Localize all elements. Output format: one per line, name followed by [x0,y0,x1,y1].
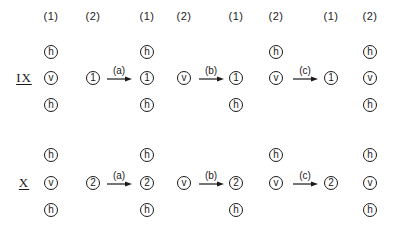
circle-node: h [363,203,377,217]
circle-node: v [269,176,283,190]
arrow-label: (c) [292,171,318,181]
column-header-1: (1) [44,10,59,22]
circle-node: 1 [229,71,243,85]
reaction-arrow: (a) [106,66,132,86]
circle-node: h [44,203,58,217]
circle-node: h [363,45,377,59]
arrow-right-icon [106,76,132,82]
reaction-arrow: (b) [198,171,224,191]
arrow-label: (c) [292,66,318,76]
column-header-2: (2) [269,10,284,22]
reaction-arrow: (c) [292,66,318,86]
arrow-right-icon [198,181,224,187]
arrow-right-icon [292,76,318,82]
circle-node: 2 [86,176,100,190]
circle-node: 1 [140,71,154,85]
circle-node: v [44,176,58,190]
circle-node: h [363,98,377,112]
circle-node: h [44,98,58,112]
circle-node: 2 [324,176,338,190]
column-header-2: (2) [177,10,192,22]
column-header-1: (1) [229,10,244,22]
circle-node: 1 [86,71,100,85]
column-header-2: (2) [363,10,378,22]
arrow-right-icon [106,181,132,187]
circle-node: v [44,71,58,85]
reaction-arrow: (a) [106,171,132,191]
arrow-right-icon [292,181,318,187]
circle-node: v [177,176,191,190]
circle-node: h [140,98,154,112]
circle-node: h [269,148,283,162]
circle-node: h [44,45,58,59]
arrow-label: (b) [198,66,224,76]
column-header-1: (1) [140,10,155,22]
arrow-right-icon [198,76,224,82]
reaction-arrow: (c) [292,171,318,191]
circle-node: h [229,203,243,217]
circle-node: v [363,176,377,190]
column-header-2: (2) [86,10,101,22]
circle-node: v [177,71,191,85]
circle-node: h [229,98,243,112]
circle-node: 1 [324,71,338,85]
circle-node: h [140,203,154,217]
circle-node: h [140,148,154,162]
circle-node: v [269,71,283,85]
circle-node: 2 [229,176,243,190]
circle-node: h [269,45,283,59]
arrow-label: (b) [198,171,224,181]
row-label: IX [16,70,32,86]
circle-node: h [140,45,154,59]
circle-node: h [44,148,58,162]
arrow-label: (a) [106,66,132,76]
circle-node: v [363,71,377,85]
arrow-label: (a) [106,171,132,181]
circle-node: h [363,148,377,162]
column-header-1: (1) [324,10,339,22]
circle-node: 2 [140,176,154,190]
reaction-arrow: (b) [198,66,224,86]
row-label: X [19,175,29,191]
